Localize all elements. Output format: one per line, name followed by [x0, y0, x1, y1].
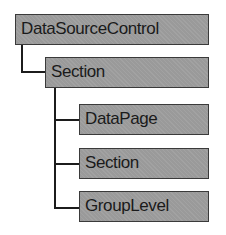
connector-to-grouplevel — [54, 207, 80, 209]
connector-to-section2 — [54, 163, 80, 165]
connector-root-to-section — [21, 71, 46, 73]
node-section: Section — [45, 57, 209, 88]
node-datasourcecontrol: DataSourceControl — [15, 14, 209, 45]
connector-root-vertical — [21, 45, 23, 73]
connector-section-vertical — [54, 88, 56, 209]
connector-to-datapage — [54, 119, 80, 121]
node-section-child: Section — [79, 148, 209, 179]
node-grouplevel: GroupLevel — [79, 191, 209, 222]
node-datapage: DataPage — [79, 104, 209, 135]
